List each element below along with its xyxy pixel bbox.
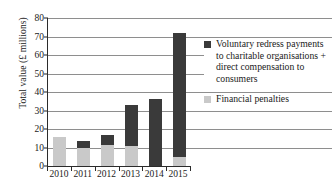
y-axis-tick-label: 30 [26,106,44,115]
dark-square-swatch [204,41,211,48]
y-axis-tick-label: 50 [26,69,44,78]
x-axis-tick-label: 2010 [47,169,71,179]
legend-item: Voluntary redress payments to charitable… [204,38,332,84]
bar-segment-voluntary-redress [125,105,138,146]
y-axis-tick-label: 0 [26,162,44,171]
bar-column [48,18,72,166]
x-axis-tick-label: 2015 [166,169,190,179]
bar-segment-financial-penalties [53,137,66,166]
bar-stack [53,137,66,166]
bar-segment-financial-penalties [101,145,114,166]
light-square-swatch [204,96,211,103]
bar-column [120,18,144,166]
y-axis-tick-labels: 01020304050607080 [26,12,44,172]
bar-segment-voluntary-redress [173,33,186,157]
y-axis-tick-label: 40 [26,88,44,97]
x-axis-tick-label: 2012 [95,169,119,179]
bar-segment-financial-penalties [173,157,186,166]
x-axis-tick-label: 2011 [71,169,95,179]
chart-legend: Voluntary redress payments to charitable… [204,38,332,114]
bar-segment-financial-penalties [77,148,90,167]
bar-stack [77,141,90,166]
x-axis-tick-label: 2014 [142,169,166,179]
stacked-bar-chart-figure: Total value (£ millions) 010203040506070… [0,0,332,193]
bar-stack [101,135,114,166]
y-axis-tick-label: 80 [26,14,44,23]
bar-segment-voluntary-redress [101,135,114,145]
x-axis-tick-label: 2013 [119,169,143,179]
y-axis-tick-label: 10 [26,143,44,152]
bar-column [72,18,96,166]
bar-stack [125,105,138,166]
bar-column [96,18,120,166]
bar-column [167,18,191,166]
bar-stack [149,99,162,166]
x-axis-tick-labels: 201020112012201320142015 [47,169,190,179]
bar-segment-voluntary-redress [149,99,162,166]
legend-item: Financial penalties [204,93,332,105]
y-axis-tick-label: 60 [26,51,44,60]
plot-area [47,18,191,167]
legend-item-label: Voluntary redress payments to charitable… [216,38,332,84]
bar-group [48,18,191,166]
x-axis-tick-mark [190,167,191,171]
y-axis-tick-label: 70 [26,32,44,41]
y-axis-tick-label: 20 [26,125,44,134]
bar-column [143,18,167,166]
bar-segment-financial-penalties [125,146,138,166]
bar-stack [173,33,186,166]
legend-item-label: Financial penalties [216,93,289,105]
